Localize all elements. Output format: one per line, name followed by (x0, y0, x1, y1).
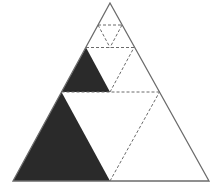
filled-triangles (13, 48, 110, 182)
dashed-line (110, 92, 160, 181)
shaded-triangle (13, 92, 110, 181)
dashed-line (98, 25, 110, 48)
nested-triangle-diagram (0, 0, 214, 187)
dashed-line (110, 25, 122, 48)
dashed-line (110, 48, 134, 93)
shaded-triangle (62, 48, 111, 93)
